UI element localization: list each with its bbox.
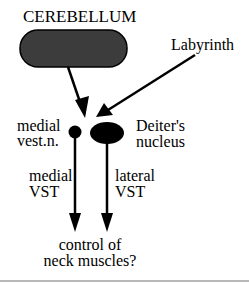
deiters-nucleus-shape xyxy=(90,122,124,144)
medial-vest-nucleus-shape xyxy=(69,126,82,139)
medial-vst-label-line2: VST xyxy=(29,183,59,200)
medial-vst-label-line1: medial xyxy=(29,167,73,184)
labyrinth-arrowhead xyxy=(96,103,113,117)
bottom-divider xyxy=(0,280,249,282)
output-label-line1: control of xyxy=(40,236,140,253)
output-label-line2: neck muscles? xyxy=(30,252,150,269)
medial-vest-n-label-line2: vest.n. xyxy=(17,132,59,149)
deiters-nucleus-label-line2: nucleus xyxy=(136,133,185,150)
cerebellum-shape xyxy=(20,30,127,67)
vestibular-pathway-diagram: CEREBELLUM Labyrinth medial vest.n. Deit… xyxy=(0,0,249,283)
lateral-vst-label-line1: lateral xyxy=(115,167,155,184)
cerebellum-arrowhead xyxy=(75,96,89,118)
lateral-vst-label-line2: VST xyxy=(115,183,145,200)
labyrinth-label: Labyrinth xyxy=(171,36,234,53)
deiters-nucleus-label-line1: Deiter's xyxy=(136,117,185,134)
lateral-vst-arrowhead xyxy=(101,213,113,232)
medial-vst-arrowhead xyxy=(69,213,81,232)
cerebellum-label: CEREBELLUM xyxy=(23,8,136,25)
